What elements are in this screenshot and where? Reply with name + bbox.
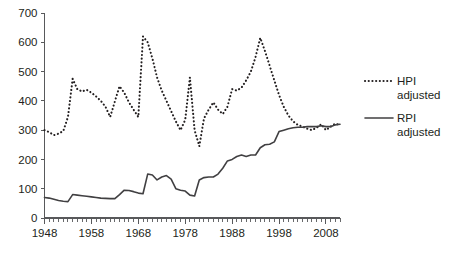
legend: HPI adjusted RPI adjusted bbox=[365, 75, 440, 138]
legend-label-hpi-line1: HPI bbox=[397, 75, 416, 87]
x-tick-label: 1968 bbox=[126, 227, 152, 239]
y-tick-label: 300 bbox=[18, 124, 37, 136]
y-tick-label: 500 bbox=[18, 66, 37, 78]
x-tick-label: 1948 bbox=[32, 227, 58, 239]
line-chart: 0100200300400500600700 19481958196819781… bbox=[0, 0, 450, 254]
chart-container: 0100200300400500600700 19481958196819781… bbox=[0, 0, 450, 254]
x-axis: 1948195819681978198819982008 bbox=[32, 218, 340, 239]
y-axis: 0100200300400500600700 bbox=[18, 7, 44, 224]
y-tick-label: 600 bbox=[18, 36, 37, 48]
legend-label-rpi-line1: RPI bbox=[397, 112, 416, 124]
x-tick-label: 1958 bbox=[79, 227, 105, 239]
y-tick-label: 200 bbox=[18, 154, 37, 166]
y-tick-label: 700 bbox=[18, 7, 37, 19]
legend-label-hpi-line2: adjusted bbox=[397, 89, 440, 101]
x-tick-label: 2008 bbox=[313, 227, 339, 239]
y-tick-label: 400 bbox=[18, 95, 37, 107]
x-axis-minor-ticks bbox=[45, 218, 341, 224]
y-tick-label: 0 bbox=[31, 212, 37, 224]
y-tick-label: 100 bbox=[18, 183, 37, 195]
legend-label-rpi-line2: adjusted bbox=[397, 126, 440, 138]
x-tick-label: 1998 bbox=[266, 227, 292, 239]
y-axis-tick-labels: 0100200300400500600700 bbox=[18, 7, 37, 224]
x-axis-tick-labels: 1948195819681978198819982008 bbox=[32, 227, 339, 239]
x-tick-label: 1988 bbox=[219, 227, 245, 239]
series-line-hpi-adjusted bbox=[45, 36, 341, 146]
x-tick-label: 1978 bbox=[172, 227, 198, 239]
plot-series bbox=[45, 36, 341, 201]
series-line-rpi-adjusted bbox=[45, 124, 341, 201]
